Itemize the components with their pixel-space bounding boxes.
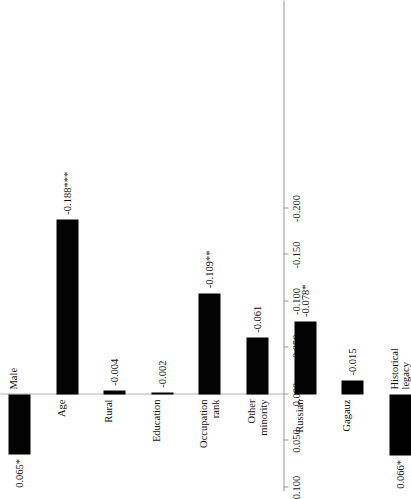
bar (151, 392, 173, 394)
data-label: -0.078* (299, 260, 310, 316)
data-label: -0.061 (251, 276, 262, 332)
bar (56, 219, 78, 394)
axis-tick-mark (283, 347, 288, 348)
data-label: -0.188*** (61, 158, 72, 214)
category-label: Historical legacy (388, 329, 411, 389)
data-label: -0.015 (346, 319, 357, 375)
bar (246, 337, 268, 394)
axis-tick-mark (283, 486, 288, 487)
value-axis-line (283, 0, 284, 491)
category-label: Russian (293, 399, 305, 459)
category-label: Education (150, 399, 162, 459)
data-label: 0.065* (13, 458, 24, 498)
bar (103, 390, 125, 394)
bar (8, 394, 30, 454)
bar (294, 321, 316, 394)
data-label: -0.002 (156, 331, 167, 387)
category-label: Rural (102, 399, 114, 459)
data-label: -0.109** (203, 232, 214, 288)
bar (341, 380, 363, 394)
bar (198, 293, 220, 394)
axis-tick-mark (283, 207, 288, 208)
axis-tick-mark (283, 300, 288, 301)
axis-tick-mark (283, 440, 288, 441)
bar (389, 394, 411, 455)
axis-tick-label: 0.100 (290, 475, 301, 499)
category-label: Male (7, 329, 19, 389)
axis-tick-label: -0.200 (290, 194, 301, 221)
data-label: -0.004 (108, 329, 119, 385)
axis-tick-mark (283, 254, 288, 255)
data-label: 0.066* (394, 459, 405, 499)
axis-tick-mark (283, 393, 288, 394)
category-label: Other minority (245, 399, 268, 459)
category-label: Gagauz (340, 399, 352, 459)
category-label: Age (55, 399, 67, 459)
category-label: Occupation rank (197, 399, 220, 459)
zero-baseline (0, 393, 283, 394)
